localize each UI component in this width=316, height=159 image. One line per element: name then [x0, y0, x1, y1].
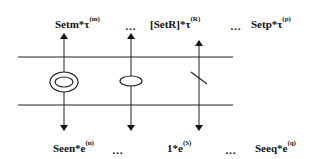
label-sup: (q) [287, 139, 296, 147]
top-label-m: Setm*τ(m) [55, 19, 100, 30]
bottom-ellipsis-2: … [225, 145, 236, 156]
bottom-label-q: Seeq*e(q) [255, 143, 296, 154]
label-sup: (m) [89, 15, 100, 23]
top-ellipsis-1: … [125, 21, 136, 32]
label-base: Setp*τ [251, 18, 282, 30]
bottom-label-n: Seen*e(n) [53, 143, 94, 154]
bottom-ellipsis-1: … [112, 145, 123, 156]
label-sup: (p) [282, 15, 291, 23]
label-base: Setm*τ [55, 18, 89, 30]
label-base: Seeq*e [255, 142, 287, 154]
label-sup: (R) [191, 15, 201, 23]
top-ellipsis-2: … [230, 21, 241, 32]
bottom-label-s: 1*e(S) [167, 143, 191, 154]
label-base: 1*e [167, 142, 183, 154]
single-ellipse-icon [120, 76, 142, 86]
top-label-r: [SetR]*τ(R) [150, 19, 200, 30]
label-base: [SetR]*τ [150, 18, 191, 30]
label-sup: (S) [183, 139, 192, 147]
label-sup: (n) [85, 139, 94, 147]
top-label-p: Setp*τ(p) [251, 19, 291, 30]
double-ellipse-inner-icon [55, 77, 73, 87]
label-base: Seen*e [53, 142, 85, 154]
